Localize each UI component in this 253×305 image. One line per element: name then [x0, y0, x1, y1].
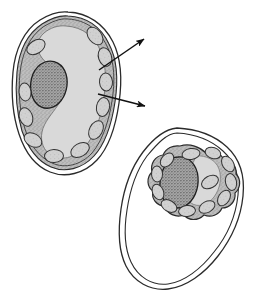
cell-diagram: [0, 0, 253, 305]
turgid-cell: [12, 12, 121, 175]
illustration-canvas: Plant cell plasmolysis comparison diagra…: [0, 0, 253, 305]
